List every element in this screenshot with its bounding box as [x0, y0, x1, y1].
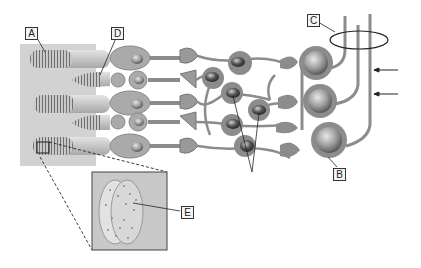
retina-diagram — [0, 0, 421, 268]
label-c: C — [307, 14, 320, 27]
rods — [30, 50, 111, 155]
arrows — [374, 68, 398, 96]
label-a: A — [25, 27, 38, 40]
label-d: D — [111, 27, 124, 40]
label-b: B — [333, 168, 346, 181]
label-e: E — [181, 206, 194, 219]
